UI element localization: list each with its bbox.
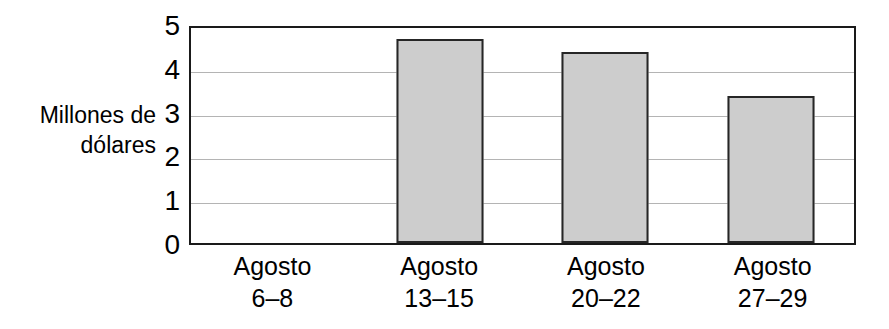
bar[interactable] [562, 52, 649, 243]
bar-slot [688, 28, 854, 243]
y-axis-title: Millones de dólares [8, 100, 156, 160]
bar-series [191, 28, 854, 243]
bar-slot [357, 28, 523, 243]
bar-slot [191, 28, 357, 243]
y-tick-label-4: 4 [140, 56, 180, 84]
bar-chart-figure: Millones de dólares 012345 Agosto 6–8Ago… [0, 0, 889, 329]
y-tick-label-2: 2 [140, 143, 180, 171]
x-tick-label: Agosto 6–8 [189, 250, 356, 314]
x-tick-label: Agosto 27–29 [689, 250, 856, 314]
x-tick-label: Agosto 13–15 [356, 250, 523, 314]
bar[interactable] [728, 96, 815, 243]
y-axis-tick-labels: 012345 [140, 0, 180, 329]
y-tick-label-1: 1 [140, 187, 180, 215]
y-tick-label-3: 3 [140, 100, 180, 128]
bar[interactable] [396, 39, 483, 243]
bar-slot [523, 28, 689, 243]
y-tick-label-5: 5 [140, 12, 180, 40]
x-axis-tick-labels: Agosto 6–8Agosto 13–15Agosto 20–22Agosto… [189, 250, 856, 326]
y-tick-label-0: 0 [140, 231, 180, 259]
plot-area [189, 26, 856, 245]
x-tick-label: Agosto 20–22 [523, 250, 690, 314]
